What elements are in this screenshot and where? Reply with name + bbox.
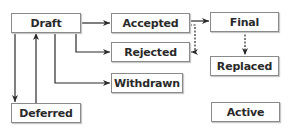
- node-withdrawn: Withdrawn: [111, 73, 183, 93]
- node-replaced: Replaced: [210, 56, 279, 76]
- node-draft: Draft: [11, 13, 81, 33]
- node-rejected: Rejected: [111, 42, 190, 62]
- edge-accepted-rejected: [190, 25, 195, 52]
- node-deferred: Deferred: [11, 103, 81, 123]
- edge-draft-withdrawn: [55, 32, 110, 83]
- node-active: Active: [211, 102, 280, 122]
- node-accepted: Accepted: [111, 13, 190, 33]
- node-final: Final: [210, 12, 279, 32]
- edge-draft-rejected: [76, 32, 110, 52]
